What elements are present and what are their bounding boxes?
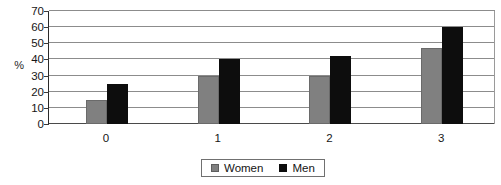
women-swatch-icon	[211, 164, 219, 172]
y-tick-mark-30	[44, 76, 49, 77]
y-tick-label-30: 30	[20, 70, 44, 82]
legend-item-women[interactable]: Women	[211, 162, 263, 174]
x-tick-label-3: 3	[421, 131, 461, 145]
bar-women-0	[86, 100, 107, 124]
bar-women-1	[198, 76, 219, 124]
bar-men-1	[219, 59, 240, 124]
x-tick-label-1: 1	[198, 131, 238, 145]
y-tick-mark-0	[44, 124, 49, 125]
men-swatch-icon	[279, 164, 287, 172]
y-tick-label-40: 40	[20, 53, 44, 65]
legend-label-men: Men	[292, 162, 314, 174]
bar-women-3	[421, 48, 442, 124]
y-tick-label-10: 10	[20, 102, 44, 114]
y-tick-mark-70	[44, 11, 49, 12]
y-tick-label-60: 60	[20, 21, 44, 33]
y-tick-mark-40	[44, 59, 49, 60]
y-tick-mark-10	[44, 108, 49, 109]
bar-men-0	[107, 84, 128, 124]
legend-item-men[interactable]: Men	[279, 162, 314, 174]
y-tick-label-50: 50	[20, 37, 44, 49]
bar-group-2	[309, 11, 351, 124]
y-tick-mark-20	[44, 92, 49, 93]
bar-women-2	[309, 76, 330, 124]
bar-group-0	[86, 11, 128, 124]
x-tick-label-2: 2	[309, 131, 349, 145]
chart-legend: WomenMen	[201, 159, 325, 177]
x-tick-label-0: 0	[86, 131, 126, 145]
y-tick-label-0: 0	[20, 118, 44, 130]
legend-label-women: Women	[224, 162, 263, 174]
bar-chart: % 010203040506070 0123 WomenMen	[0, 0, 501, 185]
bars-layer	[49, 11, 495, 124]
y-tick-mark-60	[44, 27, 49, 28]
y-axis-tick-labels: 010203040506070	[20, 6, 44, 130]
bar-men-2	[330, 56, 351, 124]
y-tick-mark-50	[44, 43, 49, 44]
bar-group-3	[421, 11, 463, 124]
plot-area	[48, 11, 495, 124]
y-tick-label-70: 70	[20, 5, 44, 17]
bar-group-1	[198, 11, 240, 124]
bar-men-3	[442, 27, 463, 124]
y-tick-label-20: 20	[20, 86, 44, 98]
x-axis-tick-labels: 0123	[48, 131, 495, 149]
